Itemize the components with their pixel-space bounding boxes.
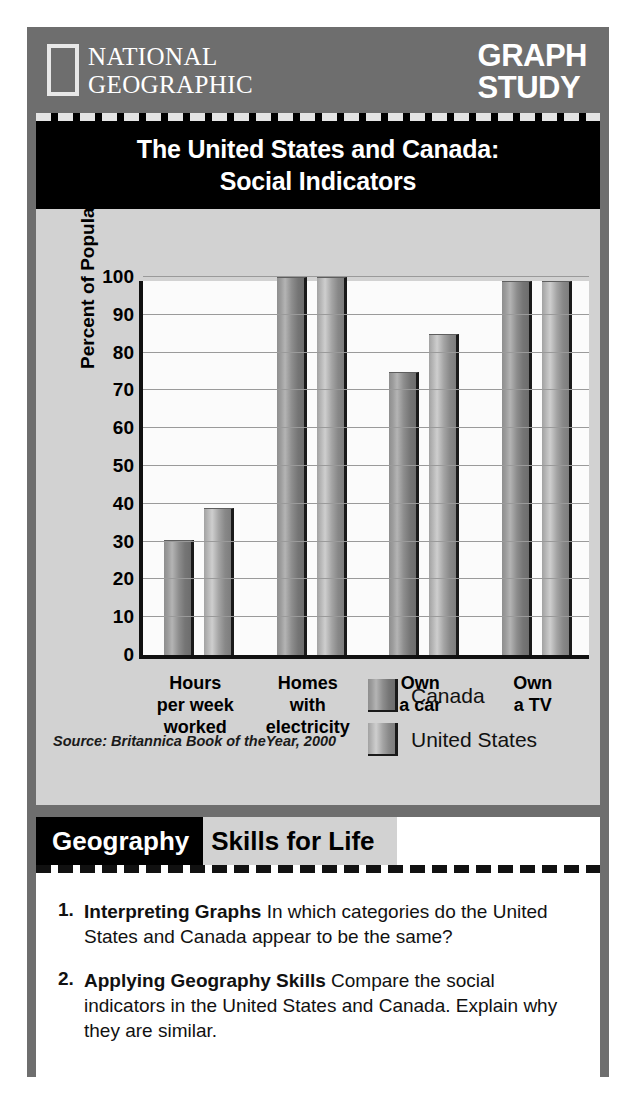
dash-segment bbox=[146, 865, 161, 873]
dash-segment bbox=[58, 113, 73, 121]
chart-bar bbox=[277, 277, 307, 655]
dash-segment bbox=[410, 865, 425, 873]
y-axis-tick-label: 90 bbox=[92, 304, 134, 326]
chart-gridline bbox=[143, 578, 589, 579]
x-axis-category-line: with bbox=[252, 695, 365, 717]
y-axis-tick-label: 100 bbox=[92, 266, 134, 288]
y-axis-tick-label: 70 bbox=[92, 379, 134, 401]
y-axis-tick-label: 10 bbox=[92, 606, 134, 628]
dash-segment bbox=[498, 113, 513, 121]
chart-legend: Canada United States bbox=[368, 679, 537, 767]
dash-segment bbox=[300, 865, 315, 873]
dash-segment bbox=[168, 865, 183, 873]
dashed-divider-top bbox=[36, 113, 600, 121]
dash-segment bbox=[278, 113, 293, 121]
dash-segment bbox=[344, 113, 359, 121]
frame-right-border bbox=[600, 27, 609, 1077]
question-item: 1.Interpreting Graphs In which categorie… bbox=[58, 899, 574, 950]
dash-segment bbox=[498, 865, 513, 873]
y-axis-tick-label: 80 bbox=[92, 342, 134, 364]
chart-plot-area: Percent of Population 010203040506070809… bbox=[139, 281, 589, 659]
chart-panel: Percent of Population 010203040506070809… bbox=[36, 209, 600, 805]
y-axis-tick-label: 0 bbox=[92, 644, 134, 666]
dash-segment bbox=[80, 113, 95, 121]
chart-bar bbox=[204, 508, 234, 655]
chart-bar bbox=[542, 281, 572, 655]
dash-segment bbox=[256, 113, 271, 121]
questions-list: 1.Interpreting Graphs In which categorie… bbox=[36, 883, 600, 1077]
dash-segment bbox=[168, 113, 183, 121]
dash-segment bbox=[278, 865, 293, 873]
question-lead-in: Interpreting Graphs bbox=[84, 901, 261, 922]
chart-gridline bbox=[143, 389, 589, 390]
dash-segment bbox=[586, 865, 600, 873]
dash-segment bbox=[520, 865, 535, 873]
x-axis-category-label: Homeswithelectricity bbox=[252, 673, 365, 739]
x-axis-category-line: Hours bbox=[139, 673, 252, 695]
question-item: 2.Applying Geography Skills Compare the … bbox=[58, 968, 574, 1044]
section-divider-bar bbox=[36, 805, 600, 817]
dash-segment bbox=[586, 113, 600, 121]
dash-segment bbox=[520, 113, 535, 121]
geography-skills-band: Geography Skills for Life bbox=[36, 817, 600, 865]
x-axis-category-line: per week bbox=[139, 695, 252, 717]
dash-segment bbox=[146, 113, 161, 121]
natgeo-wordmark: NATIONAL GEOGRAPHIC bbox=[88, 44, 253, 97]
question-number: 2. bbox=[58, 968, 84, 1044]
question-number: 1. bbox=[58, 899, 84, 950]
chart-gridline bbox=[143, 427, 589, 428]
chart-bars bbox=[143, 281, 589, 655]
dash-segment bbox=[256, 865, 271, 873]
legend-label-united-states: United States bbox=[411, 728, 537, 752]
chart-bar bbox=[502, 281, 532, 655]
y-axis-tick-label: 30 bbox=[92, 531, 134, 553]
chart-title-band: The United States and Canada: Social Ind… bbox=[36, 121, 600, 209]
feature-title: GRAPH STUDY bbox=[478, 40, 587, 104]
y-axis-tick-label: 40 bbox=[92, 493, 134, 515]
dash-segment bbox=[542, 113, 557, 121]
chart-title-line-1: The United States and Canada: bbox=[137, 133, 499, 165]
feature-title-line-1: GRAPH bbox=[478, 40, 587, 72]
y-axis-tick-label: 50 bbox=[92, 455, 134, 477]
chart-gridline bbox=[143, 541, 589, 542]
dash-segment bbox=[410, 113, 425, 121]
dash-segment bbox=[542, 865, 557, 873]
chart-gridline bbox=[143, 465, 589, 466]
geography-label: Geography bbox=[36, 817, 203, 865]
natgeo-line-1: NATIONAL bbox=[88, 44, 253, 69]
chart-gridline bbox=[143, 616, 589, 617]
dash-segment bbox=[564, 865, 579, 873]
chart-bar bbox=[389, 372, 419, 656]
legend-swatch-canada bbox=[368, 679, 398, 712]
chart-gridline bbox=[143, 503, 589, 504]
dash-segment bbox=[388, 865, 403, 873]
dash-segment bbox=[432, 113, 447, 121]
dash-segment bbox=[102, 865, 117, 873]
dash-segment bbox=[564, 113, 579, 121]
dash-segment bbox=[476, 865, 491, 873]
dash-segment bbox=[322, 113, 337, 121]
y-axis-tick-label: 60 bbox=[92, 417, 134, 439]
x-axis-category-line: Homes bbox=[252, 673, 365, 695]
dash-segment bbox=[36, 113, 51, 121]
dash-segment bbox=[58, 865, 73, 873]
page-header: NATIONAL GEOGRAPHIC GRAPH STUDY bbox=[27, 27, 609, 113]
skills-for-life-label: Skills for Life bbox=[203, 817, 396, 865]
dash-segment bbox=[454, 113, 469, 121]
dash-segment bbox=[124, 113, 139, 121]
chart-bar bbox=[429, 334, 459, 655]
dash-segment bbox=[234, 865, 249, 873]
question-text: Interpreting Graphs In which categories … bbox=[84, 899, 574, 950]
dash-segment bbox=[102, 113, 117, 121]
dash-segment bbox=[322, 865, 337, 873]
dash-segment bbox=[476, 113, 491, 121]
national-geographic-logo: NATIONAL GEOGRAPHIC bbox=[47, 44, 253, 97]
natgeo-rectangle-icon bbox=[47, 44, 79, 96]
dash-segment bbox=[80, 865, 95, 873]
question-text: Applying Geography Skills Compare the so… bbox=[84, 968, 574, 1044]
dashed-divider-geography bbox=[36, 865, 600, 873]
question-lead-in: Applying Geography Skills bbox=[84, 970, 326, 991]
legend-swatch-united-states bbox=[368, 723, 398, 756]
dash-segment bbox=[366, 113, 381, 121]
chart-gridline bbox=[143, 314, 589, 315]
